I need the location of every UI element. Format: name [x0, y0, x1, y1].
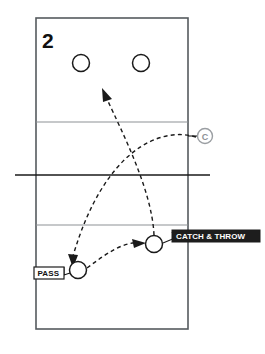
player-catcher[interactable] — [146, 236, 163, 253]
catch-and-throw-label: CATCH & THROW — [176, 232, 245, 241]
coach-letter-label: C — [202, 132, 209, 142]
drill-diagram: 2 C CATCH & THROW PASS — [0, 0, 265, 354]
player-back-left[interactable] — [73, 55, 90, 72]
pass-label: PASS — [38, 269, 60, 278]
drill-number-label: 2 — [42, 29, 54, 52]
player-passer[interactable] — [70, 262, 87, 279]
court-canvas: 2 C CATCH & THROW PASS — [0, 0, 265, 354]
player-back-right[interactable] — [133, 55, 150, 72]
